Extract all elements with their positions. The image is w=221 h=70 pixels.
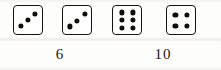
die-3-pip-6 [130, 25, 135, 30]
die-2-face [63, 6, 91, 34]
die-4-pip-3 [173, 23, 178, 28]
die-2-pip-2 [74, 18, 79, 23]
die-2-pip-3 [82, 11, 87, 16]
die-3-pip-5 [130, 17, 135, 22]
die-4-pip-2 [184, 12, 189, 17]
die-1-face [14, 6, 42, 34]
die-1-pip-1 [18, 24, 23, 29]
dice-illustration: 6 10 [0, 0, 221, 70]
sum-label-1: 6 [40, 42, 80, 66]
die-2-pip-1 [67, 24, 72, 29]
die-1-pip-2 [25, 17, 30, 22]
die-1 [13, 5, 43, 35]
die-3-pip-4 [130, 10, 135, 15]
die-4-pip-4 [184, 23, 189, 28]
sum-labels: 6 10 [0, 42, 221, 70]
die-3-face [113, 6, 141, 34]
die-4 [166, 5, 196, 35]
die-3-pip-3 [119, 25, 124, 30]
dice-row [0, 0, 221, 40]
die-3 [112, 5, 142, 35]
die-2 [62, 5, 92, 35]
die-3-pip-2 [119, 17, 124, 22]
die-4-face [167, 6, 195, 34]
die-1-pip-3 [33, 11, 38, 16]
die-4-pip-1 [173, 12, 178, 17]
die-3-pip-1 [119, 10, 124, 15]
sum-label-2: 10 [140, 42, 186, 66]
